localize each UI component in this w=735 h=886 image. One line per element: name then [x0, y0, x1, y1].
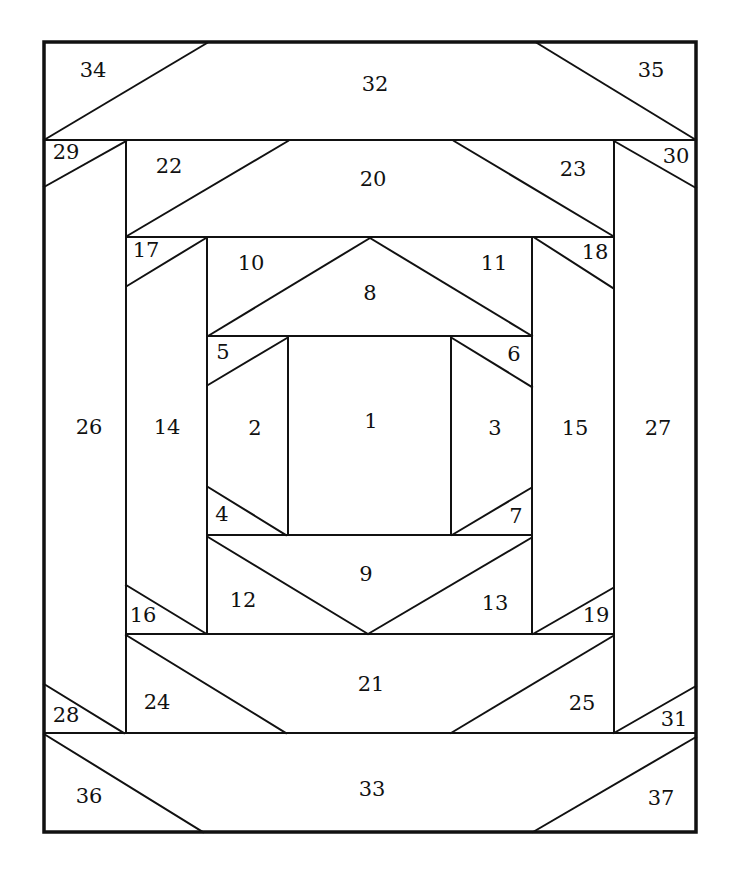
piece-label-23: 23 [560, 157, 587, 181]
piece-label-6: 6 [507, 342, 520, 366]
seam-line [368, 538, 531, 634]
piece-label-9: 9 [359, 562, 372, 586]
piece-label-1: 1 [364, 409, 377, 433]
piece-label-35: 35 [638, 58, 665, 82]
piece-label-19: 19 [583, 603, 610, 627]
piece-label-30: 30 [663, 144, 690, 168]
piece-label-34: 34 [80, 58, 107, 82]
piece-label-32: 32 [362, 72, 389, 96]
piece-label-3: 3 [488, 416, 501, 440]
piece-label-24: 24 [144, 690, 171, 714]
piece-label-11: 11 [481, 251, 508, 275]
piece-label-25: 25 [569, 691, 596, 715]
piece-number-labels: 1234567891011121314151617181920212223242… [53, 58, 690, 810]
piece-label-17: 17 [133, 238, 160, 262]
piece-label-2: 2 [248, 416, 261, 440]
piece-label-16: 16 [130, 603, 157, 627]
piece-label-8: 8 [363, 281, 376, 305]
seam-line [208, 238, 370, 336]
piece-label-28: 28 [53, 703, 80, 727]
piece-label-14: 14 [154, 415, 181, 439]
piece-label-27: 27 [645, 416, 672, 440]
seam-line [44, 734, 203, 832]
outer-border [44, 42, 696, 832]
piece-label-10: 10 [238, 251, 265, 275]
piece-label-13: 13 [482, 591, 509, 615]
piece-label-22: 22 [156, 154, 183, 178]
piece-seam-lines [44, 43, 696, 832]
seam-line [454, 141, 613, 236]
quilt-block-diagram: 1234567891011121314151617181920212223242… [0, 0, 735, 886]
piece-label-36: 36 [76, 784, 103, 808]
seam-line [126, 635, 286, 733]
seam-line [127, 141, 288, 236]
seam-line [537, 43, 696, 140]
piece-label-15: 15 [562, 416, 589, 440]
seam-line [208, 537, 368, 634]
piece-label-4: 4 [215, 502, 228, 526]
piece-label-5: 5 [216, 340, 229, 364]
piece-label-31: 31 [661, 707, 688, 731]
seam-line [370, 238, 532, 336]
piece-label-7: 7 [509, 504, 522, 528]
piece-label-26: 26 [76, 415, 103, 439]
seam-line [451, 636, 613, 733]
piece-label-33: 33 [359, 777, 386, 801]
piece-label-18: 18 [582, 240, 609, 264]
piece-label-37: 37 [648, 786, 675, 810]
seam-line [533, 737, 696, 832]
piece-label-20: 20 [360, 167, 387, 191]
piece-label-29: 29 [53, 140, 80, 164]
seam-line [44, 43, 207, 140]
piece-label-12: 12 [230, 588, 257, 612]
piece-label-21: 21 [358, 672, 385, 696]
